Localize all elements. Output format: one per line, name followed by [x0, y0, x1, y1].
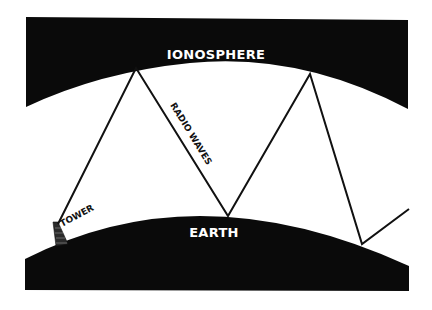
ionosphere-label: IONOSPHERE	[167, 47, 265, 62]
ionosphere-layer	[26, 17, 408, 109]
tower-label: TOWER	[58, 203, 95, 229]
radio-propagation-diagram: IONOSPHERE EARTH RADIO WAVES TOWER	[0, 0, 432, 310]
earth-label: EARTH	[189, 225, 239, 240]
